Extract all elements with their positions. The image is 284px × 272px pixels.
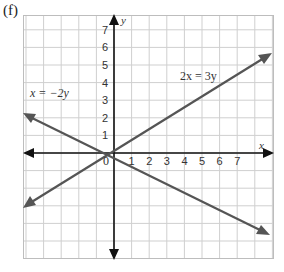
y-tick-label: 2 [102,112,108,124]
line-label-2x-eq-3y: 2x = 3y [180,69,217,83]
grid [23,15,274,258]
x-axis-left-arrow-icon [23,148,34,158]
y-tick-label: 3 [102,94,108,106]
x-tick-label: 4 [181,155,187,167]
y-tick-label: 1 [102,129,108,141]
line-label-x-eq-neg2y: x = −2y [29,86,70,100]
x-tick-label: 1 [129,155,135,167]
y-tick-label: 4 [102,77,108,89]
x-axis-label: x [258,139,264,151]
line-2x-eq-3y [23,53,272,208]
x-tick-label: 5 [199,155,205,167]
y-axis-label: y [120,14,126,26]
line2-arrow-right-icon [258,53,272,64]
x-tick-label: 2 [146,155,152,167]
panel-label: (f) [3,2,18,19]
y-tick-label: 5 [102,59,108,71]
x-tick-labels: 1234567 [129,155,241,167]
origin-label: 0 [103,154,109,168]
x-tick-label: 6 [217,155,223,167]
y-tick-labels: 1234567 [102,24,108,142]
coordinate-plane: 1234567 1234567 0 x y x = −2y 2x = 3y [0,0,284,272]
y-tick-label: 6 [102,41,108,53]
x-tick-label: 3 [164,155,170,167]
x-tick-label: 7 [234,155,240,167]
y-tick-label: 7 [102,24,108,36]
